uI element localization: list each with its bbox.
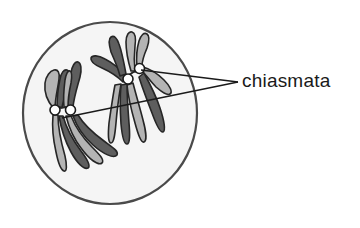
- chiasmata-label: chiasmata: [242, 70, 331, 91]
- chiasma-right-upper: [135, 64, 145, 74]
- figure-canvas: chiasmata: [0, 0, 360, 228]
- chiasma-left-inner: [66, 105, 76, 115]
- chiasmata-diagram: chiasmata: [0, 0, 360, 228]
- chiasma-left-outer: [50, 105, 60, 115]
- chiasma-right-lower: [123, 74, 133, 84]
